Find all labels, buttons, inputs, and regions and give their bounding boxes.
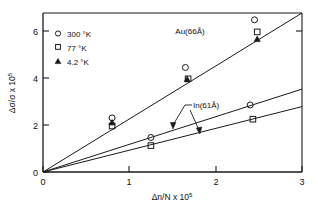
y-axis-title: Δσ/σ x 105 bbox=[7, 72, 18, 113]
x-axis-tick-labels: 0 1 2 3 bbox=[40, 177, 304, 187]
x-axis-ticks bbox=[43, 166, 302, 172]
annotation-in-label: In(61Å) bbox=[193, 101, 220, 110]
y-tick-label-0: 0 bbox=[33, 168, 38, 178]
arrowhead-left-icon bbox=[170, 123, 175, 130]
x-axis-title-exponent: 5 bbox=[189, 192, 193, 198]
series-4p2K-markers bbox=[109, 36, 260, 125]
legend-marker-filled-triangle-icon bbox=[55, 59, 61, 64]
figure-container: 0 2 4 6 0 1 2 3 Δn/N x 105 Δσ/σ x 105 bbox=[0, 0, 318, 204]
leader-left bbox=[173, 105, 185, 125]
data-point bbox=[254, 29, 260, 35]
fit-line-in-lower bbox=[43, 107, 302, 172]
x-axis-title-text: Δn/N x 10 bbox=[152, 192, 190, 202]
data-point bbox=[252, 17, 258, 23]
annotation-au-label: Au(66Å) bbox=[175, 27, 205, 36]
y-axis-title-text: Δσ/σ x 10 bbox=[7, 76, 17, 113]
x-tick-label-3: 3 bbox=[299, 177, 304, 187]
data-point bbox=[182, 65, 188, 71]
x-tick-label-2: 2 bbox=[213, 177, 218, 187]
legend-label-77k: 77 °K bbox=[67, 44, 87, 53]
y-axis-title-exponent: 5 bbox=[7, 72, 13, 76]
legend-marker-open-circle-icon bbox=[55, 31, 60, 36]
legend-label-4p2k: 4.2 °K bbox=[67, 58, 90, 67]
leader-right bbox=[190, 110, 199, 130]
y-tick-label-2: 2 bbox=[33, 121, 38, 131]
legend: 300 °K 77 °K 4.2 °K bbox=[55, 30, 92, 67]
series-77K-markers bbox=[109, 29, 260, 148]
x-tick-label-0: 0 bbox=[40, 177, 45, 187]
y-tick-label-6: 6 bbox=[33, 27, 38, 37]
x-tick-label-1: 1 bbox=[126, 177, 131, 187]
y-axis-tick-labels: 0 2 4 6 bbox=[33, 27, 38, 178]
x-axis-title: Δn/N x 105 bbox=[152, 192, 193, 203]
fit-line-in-upper bbox=[43, 89, 302, 172]
scatter-plot: 0 2 4 6 0 1 2 3 Δn/N x 105 Δσ/σ x 105 bbox=[0, 0, 318, 204]
legend-marker-open-square-icon bbox=[56, 45, 61, 50]
legend-label-300k: 300 °K bbox=[67, 30, 92, 39]
y-tick-label-4: 4 bbox=[33, 74, 38, 84]
